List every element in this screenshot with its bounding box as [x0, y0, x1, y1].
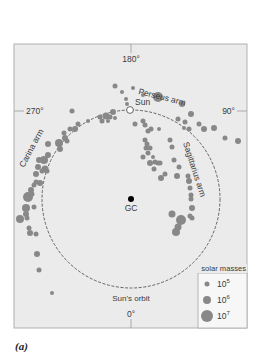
cloud-dot: [35, 164, 41, 170]
cloud-dot: [188, 214, 193, 219]
cloud-dot: [32, 205, 37, 210]
cloud-dot: [16, 215, 24, 223]
sun-orbit-label: Sun's orbit: [112, 294, 150, 303]
cloud-dot: [34, 232, 39, 237]
galactic-center-label: GC: [125, 203, 138, 213]
cloud-dot: [141, 155, 146, 160]
cloud-dot: [55, 139, 63, 147]
sun-marker: [127, 107, 134, 114]
cloud-dot: [189, 205, 195, 211]
cloud-dot: [188, 186, 193, 191]
cloud-dot: [149, 127, 154, 132]
cloud-dot: [33, 171, 39, 177]
cloud-dot: [22, 204, 30, 212]
cloud-dot: [158, 161, 163, 166]
cloud-dot: [183, 120, 188, 125]
cloud-dot: [72, 126, 78, 132]
cloud-dot: [34, 251, 40, 257]
cloud-dot: [27, 230, 33, 236]
cloud-dot: [70, 109, 75, 114]
longitude-label: 270°: [26, 106, 44, 116]
cloud-dot: [189, 197, 194, 202]
cloud-dot: [32, 183, 37, 188]
cloud-dot: [113, 116, 117, 120]
cloud-dot: [143, 123, 148, 128]
cloud-dot: [182, 126, 186, 130]
cloud-dot: [147, 160, 153, 166]
cloud-dot: [68, 127, 73, 132]
legend-swatch: [203, 296, 211, 304]
cloud-dot: [36, 157, 42, 163]
cloud-dot: [152, 167, 157, 172]
cloud-dot: [186, 178, 192, 184]
galactic-cloud-map: 180°270°90°0° Perseus armCarina armSagit…: [0, 0, 267, 357]
cloud-dot: [37, 268, 42, 273]
cloud-dot: [188, 111, 194, 117]
cloud-dot: [146, 151, 151, 156]
cloud-dot: [151, 155, 155, 159]
longitude-label: 90°: [222, 106, 235, 116]
cloud-dot: [27, 226, 32, 231]
cloud-dot: [172, 228, 180, 236]
cloud-dot: [157, 127, 161, 131]
cloud-dot: [86, 119, 90, 123]
figure-caption: (a): [15, 340, 28, 352]
cloud-dot: [106, 119, 110, 123]
longitude-label: 0°: [127, 309, 135, 319]
cloud-dot: [110, 109, 116, 115]
cloud-dot: [176, 215, 186, 225]
cloud-dot: [235, 138, 241, 144]
cloud-dot: [223, 136, 228, 141]
cloud-dot: [124, 97, 128, 101]
cloud-dot: [50, 291, 54, 295]
cloud-dot: [158, 175, 164, 181]
cloud-dot: [120, 90, 124, 94]
longitude-label: 180°: [122, 54, 140, 64]
cloud-dot: [176, 117, 181, 122]
cloud-dot: [174, 173, 180, 179]
cloud-dot: [62, 131, 67, 136]
cloud-dot: [211, 125, 217, 131]
legend-swatch: [201, 310, 213, 322]
cloud-dot: [201, 126, 207, 132]
cloud-dot: [76, 122, 81, 127]
cloud-dot: [113, 84, 118, 89]
cloud-dot: [25, 216, 30, 221]
cloud-dot: [45, 141, 51, 147]
cloud-dot: [163, 172, 168, 177]
cloud-dot: [148, 146, 153, 151]
cloud-dot: [172, 158, 177, 163]
cloud-dot: [108, 115, 113, 120]
cloud-dot: [100, 119, 105, 124]
cloud-dot: [40, 169, 45, 174]
mass-legend: solar masses 105106107: [196, 264, 247, 328]
cloud-dot: [30, 192, 35, 197]
sun-label: Sun: [135, 97, 150, 107]
cloud-dot: [177, 165, 182, 170]
cloud-dot: [131, 86, 135, 90]
cloud-dot: [57, 146, 63, 152]
cloud-dot: [170, 145, 175, 150]
cloud-dot: [65, 139, 70, 144]
cloud-dot: [197, 122, 202, 127]
cloud-dot: [45, 169, 50, 174]
cloud-dot: [133, 122, 138, 127]
cloud-dot: [187, 127, 192, 132]
cloud-dot: [169, 211, 176, 218]
cloud-dot: [125, 102, 129, 106]
legend-title: solar masses: [201, 264, 246, 273]
galactic-center-marker: [128, 196, 134, 202]
legend-swatch: [205, 282, 210, 287]
cloud-dot: [186, 174, 191, 179]
cloud-dot: [168, 138, 173, 143]
